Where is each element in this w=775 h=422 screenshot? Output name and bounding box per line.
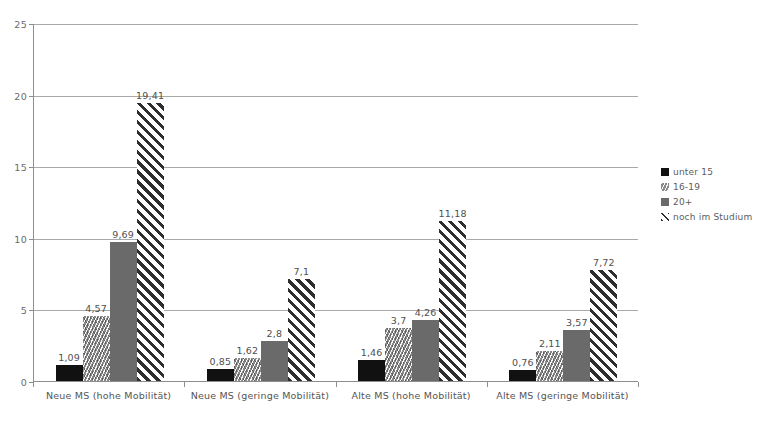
bar — [536, 351, 563, 381]
bar — [207, 369, 234, 381]
x-axis-category-label: Neue MS (geringe Mobilität) — [184, 389, 335, 402]
legend-label: 16-19 — [673, 182, 700, 192]
x-axis-ticks — [33, 382, 638, 388]
legend-label: noch im Studium — [673, 212, 752, 222]
y-axis-tick-label: 5 — [21, 305, 27, 316]
bar-group — [207, 24, 315, 381]
y-axis-tick-label: 10 — [14, 233, 27, 244]
x-axis-tick — [184, 382, 185, 387]
bar-group — [358, 24, 466, 381]
y-axis-tick — [29, 167, 34, 168]
y-axis-tick — [29, 239, 34, 240]
legend-label: unter 15 — [673, 167, 713, 177]
bar — [509, 370, 536, 381]
chart-legend: unter 1516-1920+noch im Studium — [661, 165, 773, 225]
x-axis-tick — [336, 382, 337, 387]
x-axis-category-label: Neue MS (hohe Mobilität) — [33, 389, 184, 402]
plot-area: 1,094,579,6919,410,851,622,87,11,463,74,… — [33, 24, 638, 382]
y-axis-labels: 0510152025 — [0, 24, 27, 382]
x-axis-category-label: Alte MS (geringe Mobilität) — [487, 389, 638, 402]
y-axis-tick-label: 25 — [14, 19, 27, 30]
bar — [83, 316, 110, 381]
x-axis-tick — [638, 382, 639, 387]
y-axis-tick — [29, 96, 34, 97]
bar — [110, 242, 137, 381]
bar-group — [56, 24, 164, 381]
bar — [234, 358, 261, 381]
bar — [56, 365, 83, 381]
bar — [288, 279, 315, 381]
bar — [439, 221, 466, 381]
bar — [261, 341, 288, 381]
bar — [137, 103, 164, 381]
y-axis-tick-label: 15 — [14, 162, 27, 173]
legend-swatch-icon — [661, 168, 669, 176]
y-axis-tick — [29, 24, 34, 25]
legend-label: 20+ — [673, 197, 693, 207]
bar — [385, 328, 412, 381]
legend-item: unter 15 — [661, 165, 773, 179]
bar — [590, 270, 617, 381]
legend-item: 16-19 — [661, 180, 773, 194]
bar — [358, 360, 385, 381]
x-axis-tick — [487, 382, 488, 387]
legend-swatch-icon — [661, 183, 669, 191]
y-axis-tick — [29, 310, 34, 311]
legend-item: noch im Studium — [661, 210, 773, 224]
bar — [563, 330, 590, 381]
x-axis-category-label: Alte MS (hohe Mobilität) — [336, 389, 487, 402]
bar — [412, 320, 439, 381]
y-axis-tick-label: 0 — [21, 377, 27, 388]
legend-swatch-icon — [661, 213, 669, 221]
legend-item: 20+ — [661, 195, 773, 209]
x-axis-tick — [33, 382, 34, 387]
legend-swatch-icon — [661, 198, 669, 206]
bar-group — [509, 24, 617, 381]
y-axis-tick-label: 20 — [14, 90, 27, 101]
bar-chart: 0510152025 1,094,579,6919,410,851,622,87… — [0, 0, 775, 422]
